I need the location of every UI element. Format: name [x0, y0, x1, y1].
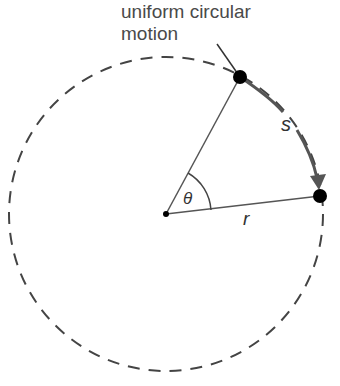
title-label: uniform circular motion [121, 1, 340, 45]
arc-length-s-lower [297, 130, 317, 178]
circular-motion-diagram [0, 0, 340, 386]
radius-line-start [166, 77, 240, 214]
particle-start-dot [233, 70, 247, 84]
title-line-1: uniform circular [121, 1, 340, 23]
particle-end-dot [313, 189, 327, 203]
arc-length-label: s [281, 113, 291, 136]
arrowhead-icon [310, 174, 326, 190]
arc-length-s-upper [240, 77, 283, 112]
radius-label: r [243, 208, 249, 230]
center-dot [163, 211, 169, 217]
title-line-2: motion [121, 23, 340, 45]
angle-label: θ [183, 189, 192, 209]
